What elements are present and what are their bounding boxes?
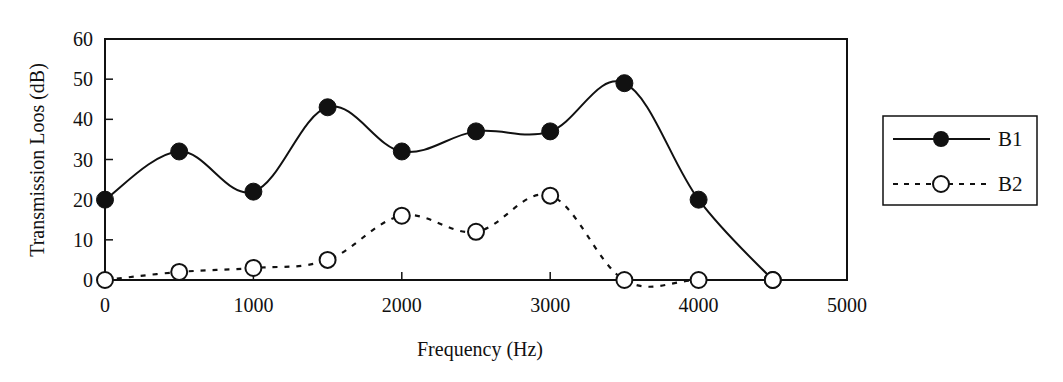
legend: B1 B2 <box>883 116 1037 205</box>
filled-circle-marker-icon <box>690 191 707 208</box>
plot-frame <box>105 39 847 280</box>
y-tick-label: 10 <box>73 229 93 251</box>
open-circle-marker-icon <box>320 252 336 268</box>
open-circle-marker-icon <box>691 272 707 288</box>
x-axis-ticks: 010002000300040005000 <box>100 272 867 316</box>
y-tick-label: 20 <box>73 189 93 211</box>
open-circle-marker-icon <box>468 224 484 240</box>
series-line <box>105 81 773 280</box>
x-tick-label: 4000 <box>679 294 719 316</box>
open-circle-marker-icon <box>933 176 949 192</box>
x-tick-label: 1000 <box>233 294 273 316</box>
filled-circle-marker-icon <box>933 131 949 147</box>
series-line <box>105 194 773 286</box>
filled-circle-marker-icon <box>319 99 336 116</box>
x-axis-title: Frequency (Hz) <box>417 338 543 361</box>
y-tick-label: 0 <box>83 269 93 291</box>
open-circle-marker-icon <box>245 260 261 276</box>
x-tick-label: 0 <box>100 294 110 316</box>
open-circle-marker-icon <box>394 208 410 224</box>
y-tick-label: 30 <box>73 149 93 171</box>
y-axis-title: Transmission Loos (dB) <box>26 63 49 257</box>
transmission-loss-chart: 0102030405060 010002000300040005000 Freq… <box>0 0 1063 382</box>
open-circle-marker-icon <box>616 272 632 288</box>
open-circle-marker-icon <box>97 272 113 288</box>
filled-circle-marker-icon <box>97 191 114 208</box>
filled-circle-marker-icon <box>468 123 485 140</box>
plot-area: 0102030405060 010002000300040005000 <box>73 28 867 316</box>
open-circle-marker-icon <box>542 188 558 204</box>
y-tick-label: 40 <box>73 108 93 130</box>
filled-circle-marker-icon <box>616 75 633 92</box>
open-circle-marker-icon <box>765 272 781 288</box>
filled-circle-marker-icon <box>245 183 262 200</box>
filled-circle-marker-icon <box>393 143 410 160</box>
x-tick-label: 2000 <box>382 294 422 316</box>
series-b1 <box>97 75 782 289</box>
filled-circle-marker-icon <box>171 143 188 160</box>
x-tick-label: 3000 <box>530 294 570 316</box>
y-tick-label: 60 <box>73 28 93 50</box>
x-tick-label: 5000 <box>827 294 867 316</box>
filled-circle-marker-icon <box>542 123 559 140</box>
series-layer <box>97 75 782 289</box>
y-axis-ticks: 0102030405060 <box>73 28 113 291</box>
y-tick-label: 50 <box>73 68 93 90</box>
series-b2 <box>97 188 781 288</box>
open-circle-marker-icon <box>171 264 187 280</box>
legend-label-b2: B2 <box>998 172 1023 196</box>
legend-label-b1: B1 <box>998 127 1023 151</box>
